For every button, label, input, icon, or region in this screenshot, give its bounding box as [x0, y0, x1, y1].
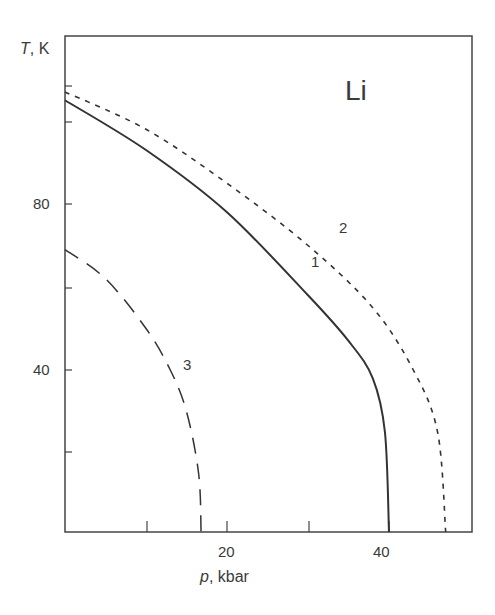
curve-label-1: 1	[311, 253, 319, 270]
y-ticks	[65, 86, 72, 452]
curve-label-3: 3	[183, 356, 191, 373]
y-axis-label: T, K	[20, 40, 49, 58]
y-tick-label-80: 80	[33, 195, 50, 212]
y-axis-var: T	[20, 40, 30, 57]
x-tick-label-20: 20	[218, 543, 235, 560]
curve-1	[65, 100, 389, 532]
x-axis-var: p	[200, 568, 209, 585]
y-tick-label-40: 40	[33, 361, 50, 378]
x-ticks	[147, 521, 389, 532]
plot-frame	[65, 36, 472, 532]
curve-label-2: 2	[339, 219, 347, 236]
element-annotation: Li	[345, 75, 367, 107]
phase-diagram-plot	[0, 0, 495, 615]
y-axis-unit: , K	[30, 40, 50, 57]
x-tick-label-40: 40	[373, 543, 390, 560]
x-axis-unit: , kbar	[209, 568, 249, 585]
x-axis-label: p, kbar	[200, 568, 249, 586]
curve-2	[65, 92, 446, 532]
curve-3	[65, 250, 201, 532]
